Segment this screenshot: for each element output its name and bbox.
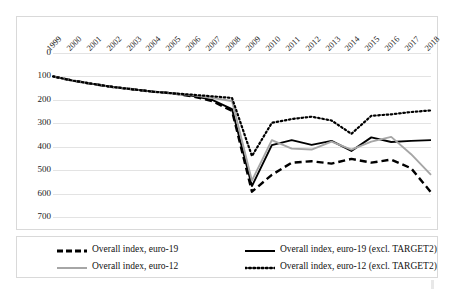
chart-root: 0100200300400500600700 19992000200120022… <box>0 0 452 291</box>
legend-swatch <box>245 260 275 272</box>
series-lines <box>17 17 437 229</box>
legend-label: Overall index, euro-19 (excl. TARGET2) <box>280 244 437 254</box>
legend-label: Overall index, euro-12 (excl. TARGET2) <box>280 261 437 271</box>
plot-area: 0100200300400500600700 19992000200120022… <box>16 16 438 230</box>
legend-swatch <box>57 260 87 272</box>
series-line <box>53 76 431 186</box>
legend-swatch <box>57 243 87 255</box>
page-corner-mark <box>431 280 434 289</box>
legend-item[interactable]: Overall index, euro-12 <box>57 258 178 274</box>
legend-item[interactable]: Overall index, euro-12 (excl. TARGET2) <box>245 258 437 274</box>
legend-item[interactable]: Overall index, euro-19 <box>57 241 178 257</box>
legend: Overall index, euro-19Overall index, eur… <box>16 236 438 278</box>
series-line <box>53 76 431 192</box>
legend-label: Overall index, euro-19 <box>92 244 178 254</box>
legend-swatch <box>245 243 275 255</box>
plot-inner: 0100200300400500600700 19992000200120022… <box>17 17 437 229</box>
legend-label: Overall index, euro-12 <box>92 261 178 271</box>
series-line <box>53 76 431 180</box>
legend-item[interactable]: Overall index, euro-19 (excl. TARGET2) <box>245 241 437 257</box>
